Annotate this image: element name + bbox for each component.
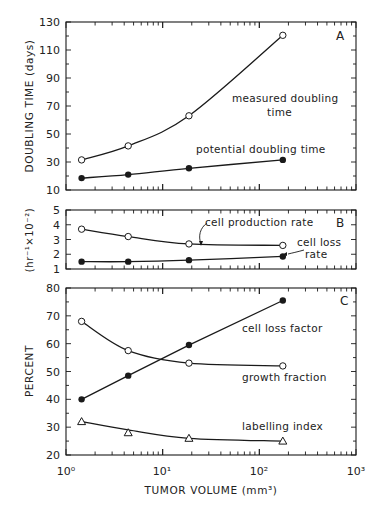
series-line [82,229,283,245]
ytick-label: 130 [39,16,60,29]
ytick-label: 80 [46,282,60,295]
xtick-1e2: 10² [250,465,268,478]
data-point-open [78,157,84,163]
data-point-open [186,241,192,247]
data-point-open [280,363,286,369]
label-cell-loss: cell loss [297,236,341,248]
data-point-filled [78,396,84,402]
xtick-1e0: 10⁰ [57,465,76,478]
panel-letter-c: C [340,294,349,308]
ytick-label: 1 [53,263,60,276]
panel-letter-b: B [336,216,345,230]
arrowhead [199,241,203,246]
data-point-open [125,143,131,149]
label-cell-production-rate: cell production rate [205,216,313,228]
ytick-label: 70 [46,310,60,323]
ytick-label: 110 [39,44,60,57]
arrow-loss [288,250,304,254]
label-cell-loss-factor: cell loss factor [242,322,323,334]
label-measured-time: time [267,106,292,118]
ytick-label: 4 [53,219,60,232]
data-point-open [186,113,192,119]
tumor-kinetics-figure: 10305070901101301234520304050607080 meas… [0,0,382,511]
ytick-label: 3 [53,234,60,247]
data-point-filled [125,258,131,264]
data-point-open [280,242,286,248]
panel-a: 1030507090110130 [39,16,356,197]
label-labelling-index: labelling index [242,420,323,432]
axes-frame [66,22,356,190]
series-line [82,256,283,261]
data-point-filled [280,297,286,303]
ytick-label: 90 [46,72,60,85]
ytick-label: 20 [46,449,60,462]
data-point-filled [280,157,286,163]
ytick-label: 50 [46,128,60,141]
xlabel-tumor-volume: TUMOR VOLUME (mm³) [143,484,277,496]
data-point-filled [125,372,131,378]
ylabel-doubling-time: DOUBLING TIME (days) [23,39,35,172]
ytick-label: 50 [46,366,60,379]
ytick-label: 60 [46,338,60,351]
ytick-label: 5 [53,204,60,217]
data-point-open [78,226,84,232]
data-point-open [125,233,131,239]
ytick-label: 2 [53,248,60,261]
data-point-filled [186,342,192,348]
ytick-label: 70 [46,100,60,113]
series-line [82,160,283,178]
ylabel-rate: (hr⁻¹×10⁻²) [24,208,35,273]
data-point-open [78,318,84,324]
xtick-1e3: 10³ [347,465,365,478]
data-point-triangle [78,418,86,425]
label-growth-fraction: growth fraction [242,371,327,383]
panel-letter-a: A [336,29,345,43]
label-measured-doubling: measured doubling [232,92,338,104]
data-point-filled [125,171,131,177]
data-point-filled [186,165,192,171]
data-point-filled [78,258,84,264]
data-point-filled [186,257,192,263]
ytick-label: 30 [46,156,60,169]
ytick-label: 30 [46,421,60,434]
data-point-open [186,360,192,366]
label-cell-loss-rate: rate [305,248,328,260]
data-point-open [280,32,286,38]
ytick-label: 40 [46,393,60,406]
label-potential-doubling: potential doubling time [196,143,326,155]
data-point-open [125,347,131,353]
ylabel-percent: PERCENT [23,345,35,397]
data-point-filled [78,175,84,181]
xtick-1e1: 10¹ [153,465,171,478]
series-line [82,301,283,400]
ytick-label: 10 [46,184,60,197]
